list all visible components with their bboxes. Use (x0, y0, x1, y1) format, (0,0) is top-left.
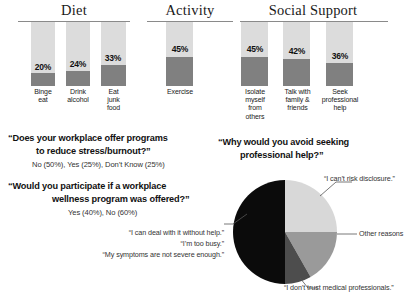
section-title-activity: Activity (144, 2, 236, 19)
pie-slice-other-barriers (233, 180, 285, 284)
leader-line-left-group (224, 214, 247, 224)
question-2-line-2: wellness program was offered?” (52, 194, 189, 204)
bar-value-eat-junk-food: 33% (95, 53, 131, 63)
bar-caption-drink-alcohol: Drink alcohol (58, 88, 98, 104)
question-1-answer: No (50%), Yes (25%), Don’t Know (25%) (32, 160, 165, 169)
question-1-line-2: to reduce stress/burnout?” (36, 146, 151, 156)
pie-slice-cant-risk-disclosure (285, 180, 337, 232)
bar-value-binge-eat: 20% (25, 62, 61, 72)
bar-fill-seek-professional-help (326, 63, 353, 86)
pie-label-symptoms-not-severe: “My symptoms are not severe enough.” (74, 250, 224, 259)
bar-value-seek-professional-help: 36% (321, 51, 359, 61)
pie-label-cant-risk-disclosure: “I can’t risk disclosure.” (324, 174, 395, 183)
bar-fill-drink-alcohol (66, 71, 90, 86)
bar-fill-isolate-myself (241, 57, 268, 86)
bar-value-exercise: 45% (161, 44, 199, 54)
question-1-line-1: “Does your workplace offer programs (8, 133, 168, 143)
bar-fill-talk-with-family (283, 59, 310, 86)
bar-track (166, 22, 193, 86)
pie-slice-other-reasons (285, 232, 337, 277)
bar-fill-exercise (166, 57, 193, 86)
bar-caption-eat-junk-food: Eat junk food (95, 88, 132, 113)
bar-track (31, 22, 55, 86)
bar-track (241, 22, 268, 86)
bar-fill-eat-junk-food (101, 65, 126, 86)
bar-caption-exercise: Exercise (155, 88, 205, 96)
pie-label-other-reasons: Other reasons (359, 229, 403, 238)
leader-line-disclosure (320, 182, 352, 196)
section-title-diet: Diet (14, 2, 134, 19)
pie-label-can-deal-without-help: “I can deal with it without help.” (84, 228, 224, 237)
bar-caption-talk-with-family: Talk with family & friends (276, 88, 319, 113)
bar-fill-binge-eat (31, 73, 55, 86)
bar-track (66, 22, 90, 86)
pie-title-line-2: professional help?” (240, 150, 323, 160)
pie-slice-dont-trust-medical-professionals (285, 232, 311, 284)
pie-label-im-too-busy: “I’m too busy.” (84, 239, 224, 248)
bar-caption-binge-eat: Binge eat (25, 88, 61, 104)
bar-value-drink-alcohol: 24% (60, 59, 96, 69)
question-2-answer: Yes (40%), No (60%) (68, 208, 137, 217)
pie-label-dont-trust-medical-professionals: “I don’t trust medical professionals.” (284, 283, 394, 292)
infographic-canvas: Diet Activity Social Support 20% Binge e… (0, 0, 420, 298)
section-title-social-support: Social Support (238, 2, 388, 19)
bar-value-talk-with-family: 42% (278, 46, 316, 56)
bar-value-isolate-myself: 45% (236, 44, 274, 54)
bar-caption-seek-professional-help: Seek professional help (315, 88, 365, 113)
bar-caption-isolate-myself: Isolate myself from others (234, 88, 276, 121)
pie-title-line-1: “Why would you avoid seeking (218, 137, 349, 147)
question-2-line-1: “Would you participate if a workplace (8, 181, 166, 191)
